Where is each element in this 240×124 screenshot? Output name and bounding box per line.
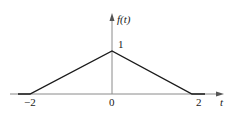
- x-axis-label: t: [220, 96, 224, 108]
- tick-label-0: 0: [109, 96, 115, 108]
- tick-label-2: 2: [196, 96, 202, 108]
- triangle-pulse-chart: f(t) 1 −2 0 2 t: [0, 0, 240, 124]
- y-axis-arrow-icon: [110, 13, 115, 21]
- y-axis-label: f(t): [117, 13, 131, 26]
- peak-value-label: 1: [118, 38, 124, 50]
- tick-label-neg2: −2: [24, 96, 36, 108]
